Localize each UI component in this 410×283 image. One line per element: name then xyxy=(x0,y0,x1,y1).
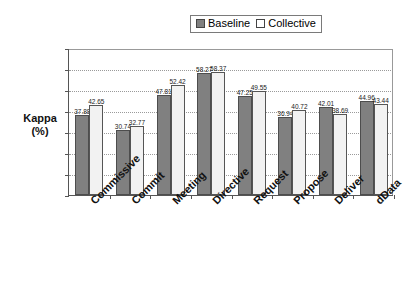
bar-collective: 49.55 xyxy=(252,91,266,195)
bar-value-label: 36.94 xyxy=(277,110,293,117)
bar-baseline: 37.88 xyxy=(75,115,89,195)
bar-value-label: 52.42 xyxy=(169,78,185,85)
legend-item-collective: Collective xyxy=(256,17,316,30)
bar-collective: 52.42 xyxy=(171,85,185,195)
y-axis-tick-mark xyxy=(65,112,69,113)
y-axis-tick-mark xyxy=(65,49,69,50)
bar-group: 37.8842.65 xyxy=(69,49,110,195)
bar-collective: 38.69 xyxy=(333,114,347,195)
y-axis-ticks: 010203040506070 xyxy=(0,49,64,196)
x-axis-category-labels: CommissiveCommitMeetingDirectiveRequestP… xyxy=(68,198,393,278)
legend-swatch-collective-icon xyxy=(256,19,265,28)
bar-collective: 40.72 xyxy=(292,110,306,196)
bar-collective: 58.37 xyxy=(211,72,225,195)
bar-collective: 42.65 xyxy=(89,105,103,195)
bar-value-label: 40.72 xyxy=(291,103,307,110)
y-axis-tick-mark xyxy=(65,91,69,92)
bar-collective: 43.44 xyxy=(374,104,388,195)
bar-value-label: 47.81 xyxy=(155,88,171,95)
legend-item-baseline: Baseline xyxy=(196,17,250,30)
y-axis-tick-mark xyxy=(65,196,69,197)
x-axis-tick-mark xyxy=(394,195,395,199)
bar-value-label: 32.77 xyxy=(129,119,145,126)
y-axis-tick-mark xyxy=(65,175,69,176)
bar-value-label: 49.55 xyxy=(251,84,267,91)
bar-value-label: 37.88 xyxy=(74,108,90,115)
y-axis-tick-mark xyxy=(65,70,69,71)
bar-value-label: 38.69 xyxy=(332,107,348,114)
y-axis-tick-mark xyxy=(65,154,69,155)
bar-value-label: 58.37 xyxy=(210,65,226,72)
legend-label-baseline: Baseline xyxy=(208,17,250,30)
legend-label-collective: Collective xyxy=(268,17,316,30)
bar-value-label: 42.01 xyxy=(318,100,334,107)
y-axis-tick-mark xyxy=(65,133,69,134)
chart-legend: Baseline Collective xyxy=(190,15,322,33)
legend-swatch-baseline-icon xyxy=(196,19,205,28)
bar-value-label: 43.44 xyxy=(373,97,389,104)
bar-value-label: 42.65 xyxy=(88,98,104,105)
